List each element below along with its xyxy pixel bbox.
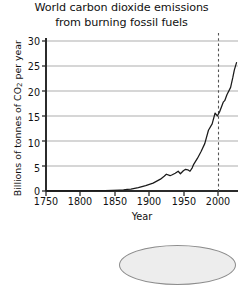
gridlines — [46, 41, 238, 166]
chart-plot-svg — [0, 0, 243, 243]
x-axis-label: Year — [46, 211, 238, 222]
plot-area: Billions of tonnes of CO2 per year 30 25… — [0, 0, 243, 243]
dome-graphic — [119, 245, 236, 285]
emissions-data-line — [46, 63, 237, 191]
